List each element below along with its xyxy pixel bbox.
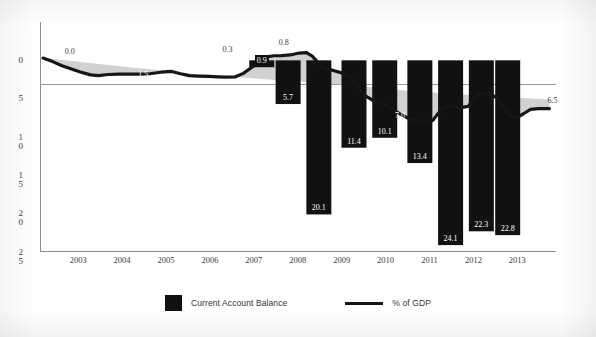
line-value-label: 6.5 xyxy=(547,96,557,105)
y-tick-15: 15 xyxy=(8,171,34,189)
bar xyxy=(469,60,494,231)
y-tick-20: 20 xyxy=(8,209,34,227)
legend-item-percent-of-gdp: % of GDP xyxy=(345,298,431,308)
x-tick-2009: 2009 xyxy=(333,255,350,265)
bar-value-label: 10.1 xyxy=(376,126,394,137)
x-tick-2005: 2005 xyxy=(158,255,175,265)
y-tick-25: 25 xyxy=(8,248,34,266)
y-tick-5: 5 xyxy=(8,94,34,103)
x-axis-tick-labels: 2003200420052006200720082009201020112012… xyxy=(40,255,556,271)
x-tick-2007: 2007 xyxy=(245,255,262,265)
bar-value-label: 5.7 xyxy=(281,92,295,103)
filled-square-icon xyxy=(165,295,182,311)
line-value-label: 0.3 xyxy=(222,45,232,54)
chart-container: 0510152025 0.95.720.111.410.113.424.122.… xyxy=(0,0,596,337)
bar xyxy=(495,60,520,235)
legend-label-current-account-balance: Current Account Balance xyxy=(191,298,287,308)
chart-legend: Current Account Balance % of GDP xyxy=(0,292,596,314)
bar xyxy=(407,60,432,163)
plot-area: 0510152025 0.95.720.111.410.113.424.122.… xyxy=(40,22,556,252)
x-tick-2010: 2010 xyxy=(377,255,394,265)
bar-value-label: 11.4 xyxy=(345,136,363,147)
y-tick-10: 10 xyxy=(8,133,34,151)
x-tick-2004: 2004 xyxy=(114,255,131,265)
line-value-label: 0.8 xyxy=(279,38,289,47)
x-tick-2012: 2012 xyxy=(465,255,482,265)
line-value-label: 0.0 xyxy=(65,47,75,56)
bar-series-current-account-balance xyxy=(249,60,520,245)
x-tick-2003: 2003 xyxy=(70,255,87,265)
bar xyxy=(306,60,331,214)
bar-value-label: 22.3 xyxy=(472,219,490,230)
legend-item-current-account-balance: Current Account Balance xyxy=(165,295,287,311)
line-value-label: 7.0 xyxy=(395,111,405,120)
bar-value-label: 24.1 xyxy=(442,233,460,244)
bar-value-label: 22.8 xyxy=(499,223,517,234)
bar-value-label: 13.4 xyxy=(411,151,429,162)
line-value-label: 1.5 xyxy=(138,70,148,79)
x-tick-2013: 2013 xyxy=(509,255,526,265)
bar xyxy=(438,60,463,245)
chart-canvas xyxy=(40,22,556,252)
line-marker-icon xyxy=(345,302,383,305)
y-tick-0: 0 xyxy=(8,56,34,65)
x-tick-2006: 2006 xyxy=(201,255,218,265)
legend-label-percent-of-gdp: % of GDP xyxy=(392,298,431,308)
x-tick-2011: 2011 xyxy=(421,255,438,265)
bar-value-label: 0.9 xyxy=(255,55,269,66)
x-tick-2008: 2008 xyxy=(289,255,306,265)
bar-value-label: 20.1 xyxy=(310,202,328,213)
